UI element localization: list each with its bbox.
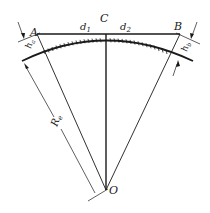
radius-arrow-top [24, 63, 29, 69]
label-point-O: O [109, 184, 118, 197]
label-hb: hb [179, 40, 192, 52]
radius-extension-line [88, 189, 108, 201]
label-point-A: A [29, 26, 38, 39]
line-BO [106, 34, 180, 190]
label-d1: d1 [80, 21, 91, 34]
label-point-B: B [173, 20, 182, 33]
ha-arrow-top [21, 33, 25, 39]
hb-arrow-bottom [176, 60, 180, 67]
label-d2: d2 [120, 21, 131, 34]
label-point-C: C [100, 12, 109, 25]
hb-arrow-top [190, 33, 194, 39]
radius-dimension-line-lower [61, 129, 95, 193]
label-radius: Re [48, 113, 65, 129]
radius-dimension-line-upper [26, 67, 54, 117]
earth-curvature-diagram: A B C O d1 d2 ha hb Re [0, 0, 210, 213]
line-AO [37, 34, 106, 190]
